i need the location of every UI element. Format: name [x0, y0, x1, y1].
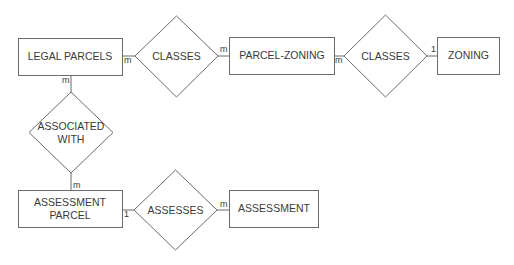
relationship-classes-2: CLASSES: [344, 15, 427, 97]
relationship-label-line2: WITH: [58, 133, 85, 145]
entity-parcel-zoning: PARCEL-ZONING: [230, 38, 335, 75]
entity-label-line1: ASSESSMENT: [34, 196, 106, 208]
cardinality-classes-1-parcel-zoning: m: [220, 44, 228, 54]
cardinality-associated-with-assessment-parcel: m: [73, 180, 81, 190]
cardinality-assesses-assessment: m: [220, 199, 228, 209]
relationship-label: ASSESSES: [147, 204, 203, 216]
entity-label-line2: PARCEL: [49, 209, 90, 221]
entity-legal-parcels: LEGAL PARCELS: [19, 39, 123, 76]
relationship-assesses: ASSESSES: [134, 170, 217, 250]
entity-zoning: ZONING: [438, 38, 500, 75]
relationship-classes-1: CLASSES: [135, 16, 218, 97]
cardinality-parcel-zoning-classes-2: m: [335, 55, 343, 65]
cardinality-classes-2-zoning: 1: [431, 44, 436, 54]
relationship-label-line1: ASSOCIATED: [38, 120, 105, 132]
cardinality-assessment-parcel-assesses: 1: [124, 209, 129, 219]
entity-label: PARCEL-ZONING: [239, 49, 325, 61]
entity-label: LEGAL PARCELS: [28, 50, 113, 62]
entity-assessment-parcel: ASSESSMENT PARCEL: [19, 191, 123, 228]
relationship-label: CLASSES: [361, 50, 409, 62]
cardinality-legal-parcels-classes-1: m: [124, 55, 132, 65]
er-diagram: LEGAL PARCELS CLASSES PARCEL-ZONING CLAS…: [0, 0, 514, 265]
entity-assessment: ASSESSMENT: [230, 191, 319, 228]
entity-label: ZONING: [448, 49, 489, 61]
relationship-associated-with: ASSOCIATED WITH: [29, 92, 113, 173]
relationship-label: CLASSES: [152, 50, 200, 62]
cardinality-legal-parcels-associated-with: m: [62, 75, 70, 85]
entity-label: ASSESSMENT: [238, 202, 310, 214]
